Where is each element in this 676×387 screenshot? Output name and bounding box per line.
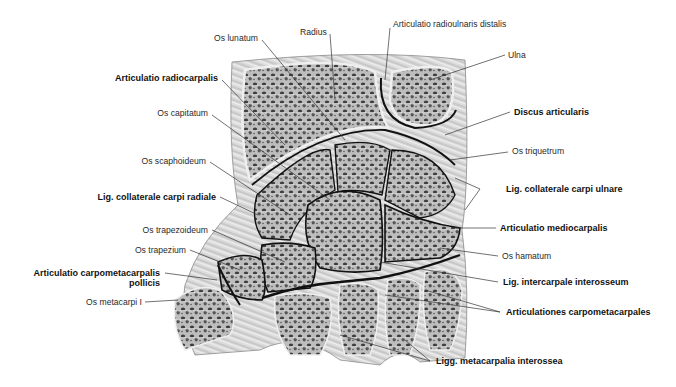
metacarpal-2 — [275, 293, 332, 355]
label-articulatio-radiocarpalis: Articulatio radiocarpalis — [90, 73, 218, 83]
label-articulatio-mediocarpalis: Articulatio mediocarpalis — [500, 223, 608, 233]
label-os-lunatum: Os lunatum — [200, 33, 258, 43]
label-radius: Radius — [300, 27, 327, 37]
label-lig-intercarpale-interosseum: Lig. intercarpale interosseum — [503, 277, 629, 287]
label-discus-articularis: Discus articularis — [514, 107, 589, 117]
label-os-hamatum: Os hamatum — [502, 251, 551, 261]
label-os-triquetrum: Os triquetrum — [512, 146, 564, 156]
label-lig-collaterale-carpi-ulnare: Lig. collaterale carpi ulnare — [506, 184, 623, 194]
label-os-trapezoideum: Os trapezoideum — [130, 225, 208, 235]
label-ulna: Ulna — [508, 50, 526, 60]
lunate-bone — [335, 142, 390, 195]
label-lig-collaterale-carpi-radiale: Lig. collaterale carpi radiale — [70, 192, 216, 202]
trapezoid-bone — [261, 243, 316, 292]
label-os-capitatum: Os capitatum — [140, 108, 208, 118]
label-ligg-metacarpalia-interossea: Ligg. metacarpalia interossea — [436, 356, 563, 366]
label-articulationes-carpometacarpales: Articulationes carpometacarpales — [506, 307, 651, 317]
capitate-bone — [306, 191, 383, 272]
label-os-scaphoideum: Os scaphoideum — [130, 156, 206, 166]
label-os-trapezium: Os trapezium — [120, 245, 186, 255]
label-line-1: Articulatio carpometacarpalis — [20, 268, 160, 278]
label-os-metacarpi-i: Os metacarpi I — [70, 297, 142, 307]
label-articulatio-radioulnaris-distalis: Articulatio radioulnaris distalis — [393, 19, 506, 29]
label-articulatio-carpometacarpalis-pollicis: Articulatio carpometacarpalis pollicis — [20, 268, 160, 288]
label-line-2: pollicis — [20, 278, 160, 288]
